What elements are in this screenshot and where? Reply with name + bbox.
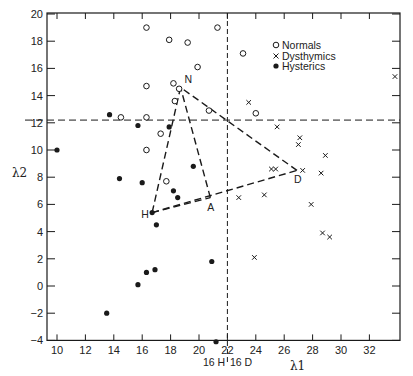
normal-point <box>118 115 124 121</box>
dysthymics-marker-icon <box>274 54 279 59</box>
hysteric-point <box>150 210 155 215</box>
y-tick-label: 12 <box>31 117 43 129</box>
normal-point <box>176 86 182 92</box>
normal-point <box>158 131 164 137</box>
normal-point <box>144 25 150 31</box>
dysthymic-point <box>319 171 324 176</box>
plot-frame <box>47 13 400 340</box>
y-tick-label: 2 <box>37 253 43 265</box>
plot-border <box>47 13 400 340</box>
x-tick-label: 16 <box>136 344 148 356</box>
y-tick-label: 4 <box>37 226 43 238</box>
triangle-edge <box>152 198 210 213</box>
hysteric-point <box>144 270 149 275</box>
dysthymic-point <box>393 74 398 79</box>
hysteric-point <box>104 311 109 316</box>
x-tick-label: 12 <box>79 344 91 356</box>
hysteric-point <box>152 267 157 272</box>
x-tick-label: 26 <box>278 344 290 356</box>
normal-point <box>215 25 221 31</box>
y-tick-label: 8 <box>37 171 43 183</box>
dysthymic-point <box>252 255 257 260</box>
dysthymic-point <box>262 193 267 198</box>
y-tick-label: 20 <box>31 8 43 20</box>
normal-point <box>172 98 178 104</box>
normal-point <box>144 115 150 121</box>
centroid-triangles <box>152 87 297 212</box>
hysteric-point <box>175 195 180 200</box>
dysthymic-point <box>275 125 280 130</box>
hysterics-marker-icon <box>273 63 278 68</box>
dysthymic-point <box>246 100 251 105</box>
hysteric-point <box>135 123 140 128</box>
hysteric-point <box>209 259 214 264</box>
y-tick-label: 18 <box>31 35 43 47</box>
hysteric-point <box>171 188 176 193</box>
dysthymic-point <box>298 135 303 140</box>
hysteric-point <box>191 164 196 169</box>
legend-hysterics: Hysterics <box>282 60 325 72</box>
vertex-label-d: D <box>294 173 302 185</box>
normal-point <box>185 40 191 46</box>
dysthymic-point <box>300 168 305 173</box>
hysteric-point <box>167 124 172 129</box>
x-tick-label: 28 <box>306 344 318 356</box>
dysthymic-point <box>323 153 328 158</box>
normal-point <box>166 37 172 43</box>
x-tick-label: 10 <box>51 344 63 356</box>
hysteric-point <box>135 282 140 287</box>
y-tick-label: 10 <box>31 144 43 156</box>
normal-point <box>164 178 170 184</box>
vertex-label-h: H <box>141 208 149 220</box>
annotation-16d: 16 D <box>230 356 253 368</box>
x-tick-label: 32 <box>363 344 375 356</box>
dysthymic-point <box>309 202 314 207</box>
data-points <box>54 25 397 345</box>
triangle-edge <box>152 87 180 212</box>
dysthymic-point <box>320 231 325 236</box>
x-tick-label: 30 <box>335 344 347 356</box>
dysthymic-point <box>273 167 278 172</box>
normal-point <box>144 147 150 153</box>
hysteric-point <box>140 180 145 185</box>
x-tick-label: 24 <box>250 344 262 356</box>
y-tick-label: −2 <box>30 307 43 319</box>
normal-point <box>206 108 212 114</box>
normal-point <box>195 64 201 70</box>
dysthymic-point <box>296 142 301 147</box>
hysteric-point <box>117 176 122 181</box>
normal-point <box>240 51 246 57</box>
y-tick-label: 6 <box>37 198 43 210</box>
vertex-labels: NHAD <box>141 73 302 219</box>
normal-point <box>253 110 259 116</box>
axis-ticks: 101214161820222426283032−4−2024681012141… <box>30 8 400 356</box>
vertex-label-a: A <box>207 201 214 213</box>
dysthymic-point <box>327 235 332 240</box>
dysthymic-point <box>269 167 274 172</box>
x-axis-title: λ1 <box>290 359 305 373</box>
x-tick-label: 14 <box>108 344 120 356</box>
x-tick-label: 20 <box>193 344 205 356</box>
hysteric-point <box>213 339 218 344</box>
annotation-16h: 16 H <box>203 356 225 368</box>
hysteric-point <box>154 222 159 227</box>
hysteric-point <box>54 147 59 152</box>
y-tick-label: 0 <box>37 280 43 292</box>
legend: Normals Dysthymics Hysterics <box>273 39 335 72</box>
y-tick-label: 14 <box>31 90 43 102</box>
dysthymic-point <box>236 195 241 200</box>
vertex-label-n: N <box>185 73 193 85</box>
y-tick-label: 16 <box>31 62 43 74</box>
y-tick-label: −4 <box>30 334 43 346</box>
reference-lines <box>25 13 400 362</box>
normal-point <box>144 83 150 89</box>
hysteric-point <box>107 112 112 117</box>
normal-point <box>171 81 177 87</box>
x-tick-label: 18 <box>164 344 176 356</box>
normals-marker-icon <box>273 42 279 48</box>
y-axis-title: λ2 <box>12 166 27 180</box>
scatter-chart: 101214161820222426283032−4−2024681012141… <box>0 0 413 376</box>
triangle-edge <box>181 87 211 197</box>
